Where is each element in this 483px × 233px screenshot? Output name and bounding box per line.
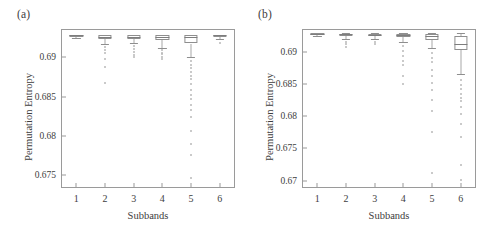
panel-a: (a) Permutation Entropy 0.6750.680.6850.…	[0, 0, 241, 233]
box-plot-outlier	[431, 69, 433, 71]
box-plot-outlier	[431, 110, 433, 112]
x-tick-mark	[191, 183, 192, 187]
y-tick-label: 0.68	[39, 131, 62, 141]
box-plot-outlier	[133, 56, 135, 58]
x-tick-label: 4	[160, 193, 165, 204]
box-plot-median	[339, 34, 352, 35]
box-plot-outlier	[402, 64, 404, 66]
box-plot-outlier	[190, 154, 192, 156]
box-plot-outlier	[431, 99, 433, 101]
x-tick-mark	[105, 183, 106, 187]
box-plot-outlier	[104, 66, 106, 68]
x-tick-label: 4	[401, 193, 406, 204]
y-tick-mark	[303, 84, 307, 85]
y-tick-label: 0.675	[35, 170, 62, 180]
panel-a-axes: 0.6750.680.6850.69123456	[61, 29, 235, 188]
y-tick-label: 0.675	[276, 143, 303, 153]
box-plot-outlier	[460, 123, 462, 125]
y-tick-label: 0.685	[35, 92, 62, 102]
whisker-cap-lower	[371, 39, 379, 40]
x-tick-mark	[76, 183, 77, 187]
y-tick-label: 0.69	[39, 52, 62, 62]
x-tick-label: 1	[315, 193, 320, 204]
box-plot-outlier	[133, 51, 135, 53]
whisker-cap-lower	[399, 42, 407, 43]
panel-a-xlabel: Subbands	[61, 210, 235, 221]
whisker-cap-lower	[187, 57, 195, 58]
box-plot-outlier	[460, 79, 462, 81]
box-plot-outlier	[431, 57, 433, 59]
box-plot-outlier	[431, 82, 433, 84]
box-plot-outlier	[460, 93, 462, 95]
box-plot-outlier	[190, 143, 192, 145]
panel-a-plot-area	[62, 30, 234, 187]
x-tick-label: 2	[344, 193, 349, 204]
box-plot-outlier	[431, 131, 433, 133]
whisker-cap-lower	[130, 43, 138, 44]
whisker-cap-lower	[428, 48, 436, 49]
box-plot-outlier	[402, 50, 404, 52]
whisker-lower	[432, 40, 433, 49]
whisker-cap-lower	[313, 36, 321, 37]
x-tick-mark	[374, 183, 375, 187]
x-tick-mark	[133, 183, 134, 187]
box-plot-outlier	[460, 100, 462, 102]
box-plot-median	[397, 35, 410, 36]
figure-canvas: (a) Permutation Entropy 0.6750.680.6850.…	[0, 0, 483, 233]
box-plot-outlier	[104, 49, 106, 51]
box-plot-outlier	[402, 60, 404, 62]
box-plot-outlier	[460, 106, 462, 108]
whisker-cap-upper	[457, 33, 465, 34]
x-tick-label: 3	[131, 193, 136, 204]
box-plot-outlier	[190, 78, 192, 80]
y-tick-mark	[303, 51, 307, 52]
box-plot-outlier	[190, 94, 192, 96]
y-tick-label: 0.68	[280, 111, 303, 121]
box-plot-median	[213, 35, 226, 36]
box-plot-outlier	[133, 48, 135, 50]
box-plot-outlier	[402, 75, 404, 77]
box-plot-outlier	[402, 45, 404, 47]
y-tick-mark	[62, 96, 66, 97]
whisker-lower	[162, 40, 163, 48]
x-tick-mark	[432, 183, 433, 187]
box-plot-outlier	[190, 89, 192, 91]
x-tick-mark	[219, 183, 220, 187]
panel-b-ylabel: Permutation Entropy	[264, 37, 275, 197]
box-plot-outlier	[460, 136, 462, 138]
box-plot-outlier	[190, 83, 192, 85]
panel-b-xlabel: Subbands	[302, 210, 476, 221]
panel-b-axes: 0.670.6750.680.6850.69123456	[302, 29, 476, 188]
box-plot-median	[311, 34, 324, 35]
whisker-lower	[191, 44, 192, 57]
box-plot-median	[70, 35, 83, 36]
x-tick-label: 5	[430, 193, 435, 204]
box-plot-outlier	[190, 116, 192, 118]
y-tick-mark	[303, 180, 307, 181]
y-tick-label: 0.67	[280, 176, 303, 186]
y-tick-mark	[62, 135, 66, 136]
box-plot-outlier	[104, 58, 106, 60]
box-plot-median	[98, 37, 111, 38]
box-plot-outlier	[190, 98, 192, 100]
box-plot-outlier	[104, 82, 106, 84]
x-tick-mark	[460, 183, 461, 187]
box-plot-outlier	[431, 75, 433, 77]
whisker-cap-lower	[101, 44, 109, 45]
box-plot-outlier	[431, 172, 433, 174]
box-plot-outlier	[460, 97, 462, 99]
box-plot-outlier	[190, 71, 192, 73]
box-plot-outlier	[190, 177, 192, 179]
box-plot-median	[184, 37, 197, 38]
box-plot-outlier	[190, 67, 192, 69]
box-plot-outlier	[345, 46, 347, 48]
box-plot-outlier	[431, 61, 433, 63]
y-tick-label: 0.685	[276, 79, 303, 89]
whisker-lower	[460, 50, 461, 74]
x-tick-mark	[403, 183, 404, 187]
y-tick-mark	[62, 175, 66, 176]
y-tick-mark	[62, 57, 66, 58]
whisker-cap-lower	[216, 39, 224, 40]
x-tick-label: 3	[372, 193, 377, 204]
box-plot-outlier	[431, 89, 433, 91]
